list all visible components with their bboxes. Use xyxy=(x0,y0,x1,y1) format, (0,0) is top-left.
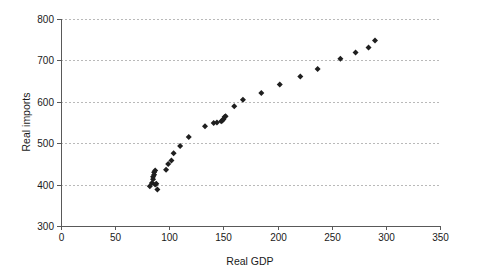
y-tick-label-400: 400 xyxy=(37,180,54,191)
x-tick-label-350: 350 xyxy=(432,232,449,243)
y-tick-label-800: 800 xyxy=(37,14,54,25)
scatter-plot: 300400500600700800 050100150200250300350… xyxy=(0,0,478,277)
y-tick-label-300: 300 xyxy=(37,221,54,232)
y-axis-title: Real imports xyxy=(20,93,32,152)
x-tick-label-300: 300 xyxy=(378,232,395,243)
y-tick-label-700: 700 xyxy=(37,55,54,66)
x-tick-label-250: 250 xyxy=(324,232,341,243)
plot-area-background xyxy=(61,19,440,226)
x-tick-label-200: 200 xyxy=(270,232,287,243)
x-axis-labels: 050100150200250300350 xyxy=(59,232,450,243)
y-tick-label-500: 500 xyxy=(37,138,54,149)
y-axis-labels: 300400500600700800 xyxy=(37,14,54,232)
y-tick-label-600: 600 xyxy=(37,97,54,108)
chart-figure: 300400500600700800 050100150200250300350… xyxy=(0,0,478,277)
x-axis-title: Real GDP xyxy=(226,255,273,267)
x-tick-label-150: 150 xyxy=(215,232,232,243)
x-tick-label-100: 100 xyxy=(161,232,178,243)
x-tick-label-0: 0 xyxy=(59,232,65,243)
x-tick-label-50: 50 xyxy=(110,232,122,243)
y-axis-tick-group xyxy=(57,20,61,227)
